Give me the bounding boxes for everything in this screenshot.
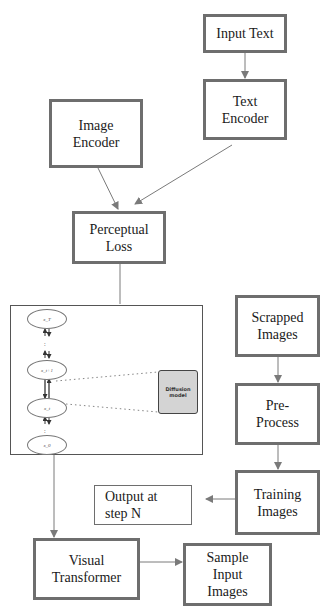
arrow-image-encoder-to-loss (98, 168, 118, 209)
scrapped-images-node: Scrapped Images (235, 295, 320, 357)
text-encoder-node: Text Encoder (203, 79, 287, 140)
image-encoder-node: Image Encoder (49, 99, 143, 168)
visual-transformer-node: Visual Transformer (33, 538, 140, 600)
training-images-node: Training Images (235, 470, 320, 535)
state-x-t: x_t (27, 398, 67, 418)
sample-input-images-node: Sample Input Images (183, 543, 272, 606)
svg-text::: : (44, 341, 46, 347)
state-x-T: x_T (27, 309, 67, 329)
arrow-text-encoder-to-loss (135, 145, 232, 204)
state-x-0: x_0 (27, 435, 67, 455)
state-x-t-plus-1: x_t+1 (27, 360, 67, 380)
pre-process-node: Pre- Process (235, 383, 320, 445)
perceptual-loss-node: Perceptual Loss (72, 211, 166, 264)
diffusion-process-panel: : : x_T x_t+1 x_t x_0 Diffusion model (10, 305, 203, 455)
output-step-n-node: Output at step N (94, 485, 192, 525)
diffusion-model-block: Diffusion model (158, 370, 198, 414)
input-text-node: Input Text (203, 14, 287, 53)
svg-text::: : (44, 428, 46, 434)
